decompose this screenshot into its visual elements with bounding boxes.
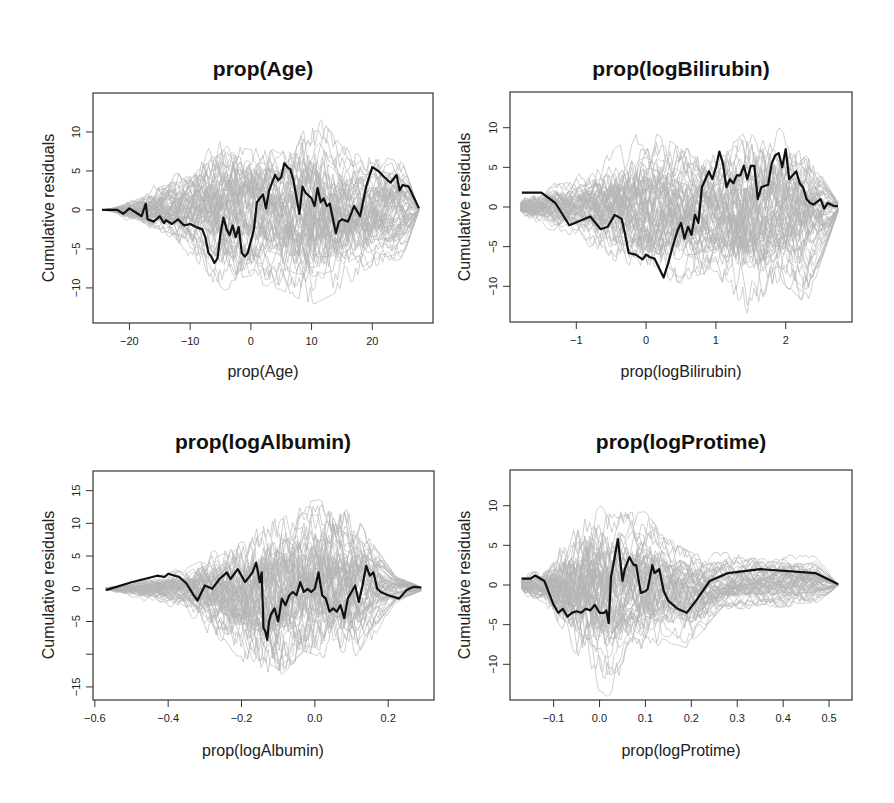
x-axis-ticks: −1012 (570, 322, 789, 346)
y-axis-label: Cumulative residuals (40, 511, 57, 660)
x-tick-label: −10 (181, 335, 200, 347)
x-tick-label: 0 (248, 335, 254, 347)
panel-title: prop(logBilirubin) (592, 57, 769, 80)
residual-plots-grid: prop(Age) prop(Age) Cumulative residuals… (0, 0, 894, 803)
y-axis-label: Cumulative residuals (456, 511, 473, 660)
y-tick-label: 5 (487, 164, 499, 170)
y-tick-label: −5 (70, 243, 82, 256)
panel-title: prop(Age) (213, 57, 313, 80)
y-tick-label: 5 (487, 542, 499, 548)
x-tick-label: 10 (305, 335, 317, 347)
x-axis-ticks: −0.6−0.4−0.20.00.2 (84, 700, 396, 724)
x-tick-label: 1 (713, 334, 719, 346)
y-axis-ticks: 1050−5−10 (70, 126, 93, 297)
y-tick-label: −10 (487, 655, 499, 674)
y-tick-label: −5 (487, 240, 499, 253)
y-axis-ticks: 151050−5−15 (70, 485, 93, 697)
y-tick-label: −10 (487, 277, 499, 296)
simulated-paths (102, 120, 419, 304)
x-axis-label: prop(logProtime) (621, 742, 740, 759)
x-tick-label: −20 (120, 335, 139, 347)
y-axis-ticks: 1050−5−10 (487, 500, 510, 674)
y-tick-label: 5 (70, 168, 82, 174)
panel-prop-logbilirubin: prop(logBilirubin) prop(logBilirubin) Cu… (456, 57, 852, 380)
x-tick-label: 0.2 (381, 712, 396, 724)
simulated-paths (521, 128, 839, 314)
panel-title: prop(logAlbumin) (175, 430, 351, 453)
x-tick-label: 0.2 (684, 712, 699, 724)
y-tick-label: 10 (70, 126, 82, 138)
y-tick-label: 10 (487, 122, 499, 134)
y-tick-label: −5 (70, 615, 82, 628)
x-tick-label: 0.0 (307, 712, 322, 724)
x-tick-label: −0.1 (543, 712, 565, 724)
y-tick-label: 15 (70, 485, 82, 497)
panel-title: prop(logProtime) (596, 430, 766, 453)
y-tick-label: 5 (70, 553, 82, 559)
y-tick-label: 0 (70, 207, 82, 213)
x-tick-label: −1 (570, 334, 583, 346)
y-tick-label: 0 (487, 204, 499, 210)
x-axis-label: prop(logAlbumin) (202, 742, 324, 759)
y-tick-label: 10 (487, 500, 499, 512)
x-tick-label: 0.0 (592, 712, 607, 724)
y-tick-label: 10 (70, 517, 82, 529)
y-axis-ticks: 1050−5−10 (487, 122, 510, 296)
x-axis-ticks: −0.10.00.10.20.30.40.5 (543, 700, 837, 724)
x-axis-label: prop(logBilirubin) (621, 363, 742, 380)
y-tick-label: 0 (70, 586, 82, 592)
panel-prop-logalbumin: prop(logAlbumin) prop(logAlbumin) Cumula… (40, 430, 434, 759)
x-tick-label: 0.5 (821, 712, 836, 724)
y-tick-label: −10 (70, 279, 82, 298)
x-tick-label: −0.4 (157, 712, 179, 724)
figure: prop(Age) prop(Age) Cumulative residuals… (0, 0, 894, 803)
y-axis-label: Cumulative residuals (456, 133, 473, 282)
simulated-paths (106, 500, 421, 675)
y-axis-label: Cumulative residuals (40, 134, 57, 283)
x-axis-label: prop(Age) (227, 363, 298, 380)
x-tick-label: 0.1 (638, 712, 653, 724)
x-tick-label: 0.3 (730, 712, 745, 724)
y-tick-label: −15 (70, 678, 82, 697)
simulated-paths (522, 506, 839, 697)
y-tick-label: −5 (487, 618, 499, 631)
x-tick-label: 0.4 (775, 712, 790, 724)
x-tick-label: 20 (366, 335, 378, 347)
panel-prop-age: prop(Age) prop(Age) Cumulative residuals… (40, 57, 433, 380)
x-tick-label: −0.2 (231, 712, 253, 724)
x-tick-label: 2 (783, 334, 789, 346)
y-tick-label: 0 (487, 582, 499, 588)
panel-prop-logprotime: prop(logProtime) prop(logProtime) Cumula… (456, 430, 852, 759)
x-axis-ticks: −20−1001020 (120, 323, 378, 347)
x-tick-label: 0 (643, 334, 649, 346)
x-tick-label: −0.6 (84, 712, 106, 724)
